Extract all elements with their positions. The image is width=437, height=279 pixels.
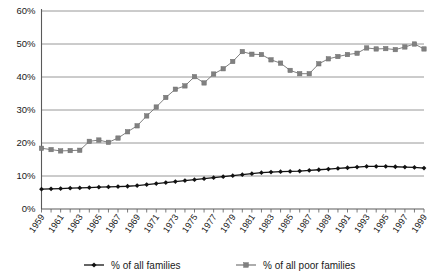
y-tick-label: 30%	[16, 104, 36, 115]
data-point	[307, 168, 312, 173]
data-point	[297, 72, 301, 76]
data-point	[250, 52, 254, 56]
x-tick-label: 1985	[276, 212, 296, 234]
data-point	[135, 124, 139, 128]
data-point	[403, 45, 407, 49]
x-tick-label: 1959	[27, 212, 47, 234]
data-point	[336, 166, 341, 171]
x-tick-label: 1989	[314, 212, 334, 234]
y-tick-label: 50%	[16, 38, 36, 49]
data-point	[221, 174, 226, 179]
legend-marker-diamond	[91, 262, 96, 267]
data-point	[154, 105, 158, 109]
data-point	[288, 169, 293, 174]
data-point	[336, 54, 340, 58]
data-point	[87, 139, 91, 143]
x-tick-label: 1997	[390, 212, 410, 234]
data-point	[192, 74, 196, 78]
legend-label: % of all families	[111, 260, 180, 271]
data-point	[355, 165, 360, 170]
data-point	[269, 58, 273, 62]
data-point	[259, 52, 263, 56]
y-tick-label: 20%	[16, 137, 36, 148]
legend-label: % of all poor families	[263, 260, 355, 271]
data-point	[164, 95, 168, 99]
data-point	[144, 114, 148, 118]
data-point	[412, 165, 417, 170]
data-point	[364, 46, 368, 50]
data-point	[77, 185, 82, 190]
x-tick-label: 1983	[256, 212, 276, 234]
data-point	[345, 52, 349, 56]
data-series	[39, 42, 426, 192]
x-tick-label: 1993	[352, 212, 372, 234]
data-point	[249, 171, 254, 176]
data-point	[173, 87, 177, 91]
data-point	[230, 173, 235, 178]
x-tick-label: 1963	[65, 212, 85, 234]
data-point	[192, 177, 197, 182]
gridlines	[42, 11, 425, 176]
data-point	[106, 184, 111, 189]
data-point	[393, 164, 398, 169]
data-point	[183, 84, 187, 88]
data-point	[87, 185, 92, 190]
data-point	[39, 146, 43, 150]
data-point	[163, 180, 168, 185]
data-point	[202, 81, 206, 85]
x-tick-label: 1991	[333, 212, 353, 234]
data-point	[97, 138, 101, 142]
data-point	[288, 68, 292, 72]
data-point	[116, 184, 121, 189]
data-point	[173, 179, 178, 184]
x-axis: 1959196119631965196719691971197319751977…	[27, 209, 429, 235]
y-tick-label: 40%	[16, 71, 36, 82]
data-point	[326, 167, 331, 172]
data-point	[355, 51, 359, 55]
x-tick-label: 1987	[295, 212, 315, 234]
data-point	[422, 166, 427, 171]
x-tick-label: 1995	[371, 212, 391, 234]
data-point	[240, 49, 244, 53]
data-point	[39, 187, 44, 192]
data-point	[317, 62, 321, 66]
data-point	[231, 59, 235, 63]
data-point	[96, 185, 101, 190]
data-point	[116, 136, 120, 140]
data-point	[106, 140, 110, 144]
legend-marker-square	[244, 263, 249, 268]
y-axis: 0%10%20%30%40%50%60%	[16, 5, 41, 214]
x-tick-label: 1967	[103, 212, 123, 234]
data-point	[68, 148, 72, 152]
data-point	[269, 170, 274, 175]
data-point	[393, 47, 397, 51]
x-tick-label: 1999	[409, 212, 429, 234]
data-point	[326, 57, 330, 61]
data-point	[125, 184, 130, 189]
data-point	[49, 147, 53, 151]
x-tick-label: 1973	[161, 212, 181, 234]
x-tick-label: 1979	[218, 212, 238, 234]
x-tick-label: 1975	[180, 212, 200, 234]
x-tick-label: 1969	[123, 212, 143, 234]
data-point	[345, 165, 350, 170]
data-point	[307, 72, 311, 76]
x-tick-label: 1961	[46, 212, 66, 234]
data-point	[144, 182, 149, 187]
data-point	[78, 148, 82, 152]
data-point	[297, 169, 302, 174]
y-tick-label: 60%	[16, 5, 36, 16]
data-point	[154, 181, 159, 186]
data-point	[402, 165, 407, 170]
data-point	[374, 164, 379, 169]
data-point	[183, 178, 188, 183]
x-tick-label: 1981	[237, 212, 257, 234]
data-point	[58, 149, 62, 153]
line-chart: 0%10%20%30%40%50%60% 1959196119631965196…	[0, 0, 437, 279]
data-point	[68, 186, 73, 191]
data-point	[49, 186, 54, 191]
data-point	[211, 72, 215, 76]
chart-legend: % of all families% of all poor families	[84, 260, 355, 271]
data-point	[383, 164, 388, 169]
x-tick-label: 1965	[84, 212, 104, 234]
